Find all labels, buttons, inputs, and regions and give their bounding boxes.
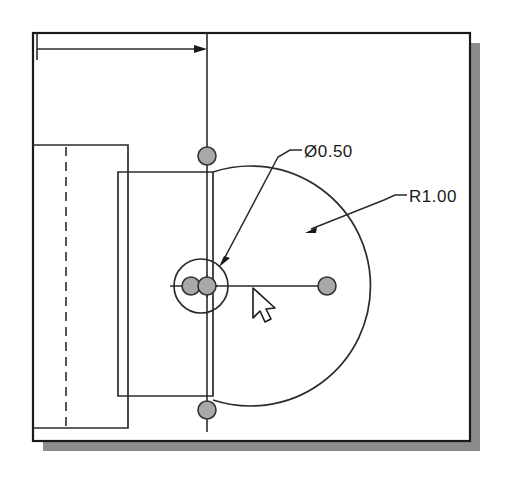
cad-drawing-canvas[interactable]: Ø0.50 R1.00 — [0, 0, 512, 497]
handle-bottom[interactable] — [198, 401, 216, 419]
handle-center-right[interactable] — [198, 277, 216, 295]
diameter-dimension-label[interactable]: Ø0.50 — [304, 142, 353, 161]
handle-top[interactable] — [198, 147, 216, 165]
handle-right[interactable] — [318, 277, 336, 295]
radius-dimension-label[interactable]: R1.00 — [409, 187, 457, 206]
drawing-page[interactable] — [33, 33, 470, 441]
